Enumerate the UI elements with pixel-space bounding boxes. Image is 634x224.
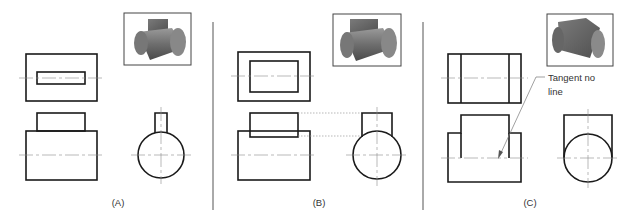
front-view-b bbox=[231, 113, 317, 180]
thumbnail-a bbox=[124, 13, 191, 65]
projection-lines-b bbox=[298, 113, 362, 136]
front-view-a bbox=[19, 113, 104, 180]
panel-a: (A) bbox=[19, 13, 191, 208]
panel-label-b: (B) bbox=[313, 197, 326, 208]
top-view-c bbox=[441, 54, 528, 103]
panel-c: Tangent no line (C) bbox=[441, 14, 619, 208]
panel-b: (B) bbox=[231, 14, 408, 208]
top-view-b bbox=[231, 52, 317, 101]
arrowhead-icon bbox=[498, 150, 503, 159]
panel-label-c: (C) bbox=[523, 197, 536, 208]
top-view-a bbox=[19, 54, 104, 101]
callout-line-2: line bbox=[548, 86, 563, 97]
panel-label-a: (A) bbox=[112, 197, 125, 208]
thumbnail-b bbox=[333, 14, 401, 66]
multiview-drawing: (A) (B) bbox=[0, 0, 634, 224]
thumbnail-c bbox=[547, 14, 613, 66]
side-view-b bbox=[346, 107, 408, 186]
callout-line-1: Tangent no bbox=[548, 72, 595, 83]
side-view-a bbox=[131, 107, 191, 184]
side-view-c bbox=[557, 109, 619, 188]
front-view-c bbox=[441, 115, 528, 182]
